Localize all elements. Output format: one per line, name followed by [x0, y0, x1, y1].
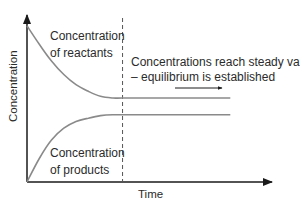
y-axis-label: Concentration — [7, 50, 19, 122]
reactants-label-line-1: Concentration — [50, 29, 125, 43]
products-label-line-2: of products — [50, 163, 109, 177]
products-label-line-1: Concentration — [50, 146, 125, 160]
reactants-label-line-2: of reactants — [50, 46, 113, 60]
annotation-line-1: Concentrations reach steady values — [131, 55, 300, 69]
annotation-line-2: – equilibrium is established — [131, 70, 275, 84]
x-axis-label: Time — [138, 188, 163, 200]
equilibrium-chart: Time Concentration Concentration of reac… — [0, 0, 300, 208]
